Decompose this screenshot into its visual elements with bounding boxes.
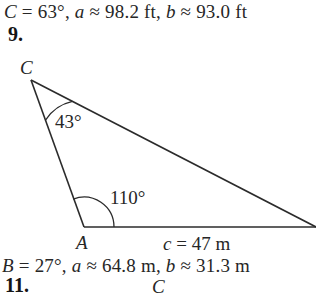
vertex-label-A: A: [76, 233, 88, 252]
answer-bottom-var-a: a: [72, 255, 82, 276]
answer-line-bottom: B = 27°, a ≈ 64.8 m, b ≈ 31.3 m: [2, 256, 250, 275]
answer-bottom-seg-3: ≈ 31.3 m: [176, 255, 251, 276]
worksheet-page: C = 63°, a ≈ 98.2 ft, b ≈ 93.0 ft 9. C 4…: [0, 0, 316, 300]
triangle-side-CB: [31, 80, 316, 227]
answer-bottom-seg-2: ≈ 64.8 m,: [81, 255, 165, 276]
answer-bottom-seg-1: = 27°,: [14, 255, 72, 276]
angle-label-110: 110°: [110, 188, 145, 207]
side-label-c: c = 47 m: [163, 234, 230, 253]
problem-number-11: 11.: [5, 275, 29, 295]
side-label-c-value: = 47 m: [171, 233, 230, 254]
angle-label-43: 43°: [55, 112, 82, 131]
vertex-label-C-bottom: C: [152, 277, 165, 296]
triangle-side-CA: [31, 80, 84, 227]
vertex-label-C-top: C: [20, 58, 33, 77]
answer-bottom-var-b: b: [166, 255, 176, 276]
answer-bottom-var-B: B: [2, 255, 14, 276]
